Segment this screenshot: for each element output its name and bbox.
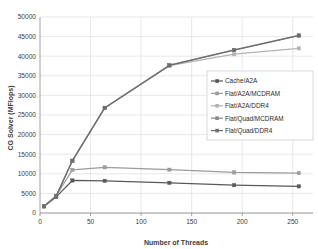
data-point-marker [54, 195, 57, 198]
series-line [44, 167, 299, 206]
data-point-marker [232, 183, 235, 186]
legend-marker-swatch [215, 79, 219, 83]
y-tick-label: 0 [32, 209, 36, 216]
data-point-marker [103, 179, 106, 182]
y-axis-tick-labels: 0500010000150002000025000300003500040000… [18, 13, 37, 216]
data-point-marker [297, 34, 300, 37]
y-tick-label: 30000 [18, 92, 37, 99]
x-tick-label: 250 [287, 218, 298, 225]
data-point-marker [71, 168, 74, 171]
legend-label: Flat/Quad/DDR4 [225, 127, 273, 135]
x-axis-tick-labels: 050100150200250 [38, 218, 298, 225]
data-point-marker [297, 47, 300, 50]
y-tick-label: 5000 [21, 190, 36, 197]
data-point-marker [103, 106, 106, 109]
legend-label: Flat/A2A/MCDRAM [225, 90, 280, 97]
legend-label: Flat/Quad/MCDRAM [225, 115, 284, 123]
y-tick-label: 50000 [18, 13, 37, 20]
chart-container: 0500010000150002000025000300003500040000… [0, 0, 318, 249]
legend-label: Cache/A2A [225, 77, 258, 84]
data-point-marker [42, 205, 45, 208]
x-tick-label: 150 [186, 218, 197, 225]
chart-legend: Cache/A2AFlat/A2A/MCDRAMFlat/A2A/DDR4Fla… [207, 71, 313, 140]
legend-marker-swatch [215, 92, 219, 96]
y-tick-label: 40000 [18, 53, 37, 60]
y-tick-label: 35000 [18, 72, 37, 79]
y-tick-label: 20000 [18, 131, 37, 138]
x-tick-label: 100 [136, 218, 147, 225]
legend-marker-swatch [215, 129, 219, 133]
data-point-marker [297, 185, 300, 188]
x-tick-label: 200 [237, 218, 248, 225]
y-tick-label: 10000 [18, 170, 37, 177]
legend-marker-swatch [215, 116, 219, 120]
data-point-marker [297, 171, 300, 174]
data-point-marker [103, 166, 106, 169]
x-tick-label: 0 [38, 218, 42, 225]
legend-label: Flat/A2A/DDR4 [225, 102, 269, 109]
data-point-marker [232, 53, 235, 56]
x-tick-label: 50 [87, 218, 95, 225]
x-axis-title: Number of Threads [144, 239, 208, 246]
data-point-marker [71, 179, 74, 182]
y-tick-label: 25000 [18, 111, 37, 118]
data-point-marker [168, 181, 171, 184]
cg-solver-line-chart: 0500010000150002000025000300003500040000… [0, 0, 318, 249]
y-axis-title: CG Solver (MFlops) [7, 86, 15, 151]
series-flat-a2a-mcdram [42, 166, 300, 208]
data-point-marker [232, 171, 235, 174]
data-point-marker [168, 168, 171, 171]
data-point-marker [232, 48, 235, 51]
data-point-marker [168, 64, 171, 67]
legend-marker-swatch [215, 104, 219, 108]
y-tick-label: 15000 [18, 151, 37, 158]
data-point-marker [71, 159, 74, 162]
y-tick-label: 45000 [18, 33, 37, 40]
